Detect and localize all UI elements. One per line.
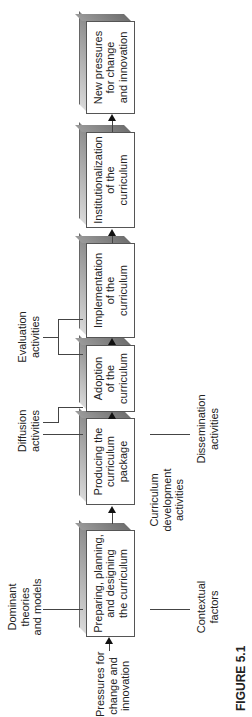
stage-box-implementation: Implementationof thecurriculum (86, 243, 135, 338)
annotation-evaluation: Evaluationactivities (16, 302, 41, 372)
stage-box-adoption: Adoptionof thecurriculum (86, 345, 135, 412)
connector-dissemination (150, 434, 190, 435)
stage-box-producing: Producing thecurriculumpackage (86, 418, 135, 505)
stage-label-producing: Producing thecurriculumpackage (86, 418, 135, 505)
connector-diffusion-producing (43, 434, 83, 435)
arrow-institutionalization-to-new-pressures (108, 114, 116, 121)
stage-label-new-pressures: New pressuresfor changeand innovation (86, 21, 135, 114)
connector-evaluation-implementation (58, 319, 83, 320)
figure-label: FIGURE 5.1 (234, 646, 248, 711)
annotation-dissemination: Disseminationactivities (195, 389, 220, 469)
stage-label-implementation: Implementationof thecurriculum (86, 243, 135, 338)
connector-diffusion-adoption (58, 407, 83, 408)
stage-label-adoption: Adoptionof thecurriculum (86, 345, 135, 412)
stage-box-new-pressures: New pressuresfor changeand innovation (86, 21, 135, 114)
connector-contextual-factors (150, 609, 190, 610)
connector-evaluation-adoption (58, 354, 83, 355)
annotation-diffusion: Diffusionactivities (16, 401, 41, 461)
annotation-dominant-theories: Dominanttheoriesand models (6, 577, 44, 637)
annotation-curriculum-development: Curriculumdevelopmentactivities (148, 468, 186, 532)
arrow-adoption-to-implementation (108, 338, 116, 345)
stage-box-institutionalization: Institutionalizationof thecurriculum (86, 132, 135, 228)
input-label-pressures: Pressures forchange andinnovation (94, 655, 132, 717)
diagram-canvas: Preparing, planning,and designingthe cur… (0, 0, 252, 717)
stage-label-institutionalization: Institutionalizationof thecurriculum (86, 132, 135, 228)
connector-dominant-theories (43, 609, 83, 610)
arrow-input-to-preparing (105, 637, 113, 644)
arrow-implementation-to-institutionalization (108, 229, 116, 236)
arrow-preparing-to-producing (108, 506, 116, 513)
arrow-producing-to-adoption (108, 412, 116, 419)
stage-label-preparing: Preparing, planning,and designingthe cur… (86, 530, 135, 637)
stage-box-preparing: Preparing, planning,and designingthe cur… (86, 530, 135, 637)
annotation-contextual-factors: Contextualfactors (195, 577, 220, 637)
